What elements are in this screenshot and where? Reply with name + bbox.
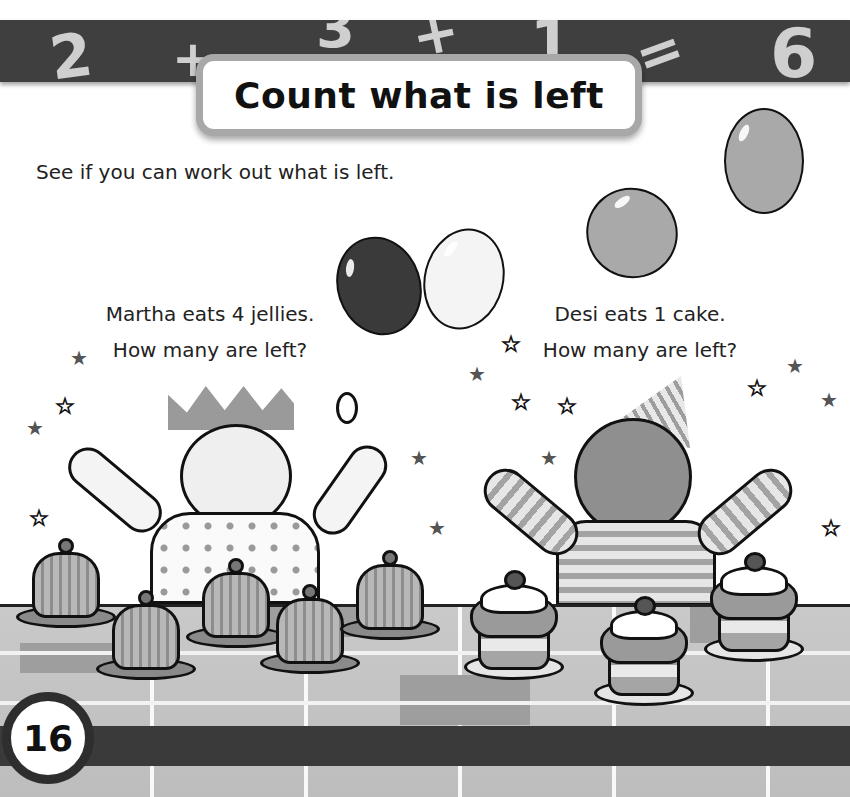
table-tile bbox=[400, 675, 530, 725]
cupcake-icon bbox=[594, 596, 694, 706]
desi-sweater bbox=[556, 520, 716, 606]
star-icon: ★ bbox=[410, 448, 428, 468]
star-icon: ★ bbox=[26, 418, 44, 438]
star-icon: ★ bbox=[822, 518, 840, 538]
left-problem: Martha eats 4 jellies. How many are left… bbox=[80, 296, 340, 368]
star-icon: ★ bbox=[56, 396, 74, 416]
martha-left-arm bbox=[60, 439, 170, 540]
star-icon: ★ bbox=[70, 348, 88, 368]
balloon-dark-icon bbox=[324, 225, 435, 346]
balloon-grey-icon bbox=[570, 171, 695, 295]
star-icon: ★ bbox=[502, 334, 520, 354]
desi-right-arm bbox=[689, 460, 802, 564]
star-icon: ★ bbox=[786, 356, 804, 376]
page-title: Count what is left bbox=[234, 75, 604, 116]
balloon-white-icon bbox=[413, 220, 515, 338]
left-problem-statement: Martha eats 4 jellies. bbox=[80, 296, 340, 332]
right-problem-question: How many are left? bbox=[520, 332, 760, 368]
right-problem-statement: Desi eats 1 cake. bbox=[520, 296, 760, 332]
intro-text: See if you can work out what is left. bbox=[36, 160, 394, 184]
table-line bbox=[0, 701, 850, 705]
star-icon: ★ bbox=[540, 448, 558, 468]
star-icon: ★ bbox=[30, 508, 48, 528]
martha-right-arm bbox=[305, 438, 395, 543]
band-digit-3: 3 bbox=[316, 20, 355, 56]
jelly-icon bbox=[340, 550, 440, 640]
bottom-band bbox=[0, 726, 850, 766]
left-problem-question: How many are left? bbox=[80, 332, 340, 368]
star-icon: ★ bbox=[748, 378, 766, 398]
title-box: Count what is left bbox=[196, 54, 642, 136]
jelly-icon bbox=[96, 590, 196, 680]
star-icon: ★ bbox=[820, 390, 838, 410]
star-icon: ★ bbox=[468, 364, 486, 384]
page-number: 16 bbox=[2, 692, 94, 784]
desi-left-arm bbox=[475, 460, 588, 564]
band-digit-6: 6 bbox=[770, 20, 817, 82]
star-icon: ★ bbox=[428, 518, 446, 538]
star-icon: ★ bbox=[512, 392, 530, 412]
balloon-grey-icon bbox=[724, 108, 804, 214]
spoon-icon bbox=[336, 392, 358, 424]
right-problem: Desi eats 1 cake. How many are left? bbox=[520, 296, 760, 368]
cupcake-icon bbox=[464, 570, 564, 680]
band-digit-2: 2 bbox=[46, 23, 96, 82]
star-icon: ★ bbox=[558, 396, 576, 416]
cupcake-icon bbox=[704, 552, 804, 662]
desi-head bbox=[574, 418, 692, 536]
